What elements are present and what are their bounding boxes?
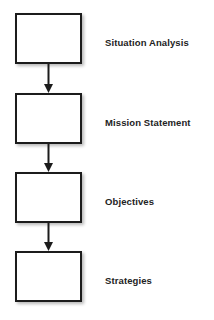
arrow-down-icon xyxy=(42,143,55,173)
flow-node-strategies[interactable] xyxy=(15,251,82,302)
flowchart-canvas: Situation Analysis Mission Statement Obj… xyxy=(0,0,214,320)
flow-node-situation-analysis[interactable] xyxy=(15,13,82,64)
flow-node-mission-statement[interactable] xyxy=(15,93,82,144)
node-label-mission-statement: Mission Statement xyxy=(105,117,214,128)
arrow-down-icon xyxy=(42,222,55,252)
node-label-objectives: Objectives xyxy=(105,196,214,207)
connector-arrow-2 xyxy=(42,143,55,173)
connector-arrow-3 xyxy=(42,222,55,252)
node-label-situation-analysis: Situation Analysis xyxy=(105,37,214,48)
flow-node-objectives[interactable] xyxy=(15,172,82,223)
arrow-down-icon xyxy=(42,64,55,94)
node-label-strategies: Strategies xyxy=(105,275,214,286)
connector-arrow-1 xyxy=(42,64,55,94)
